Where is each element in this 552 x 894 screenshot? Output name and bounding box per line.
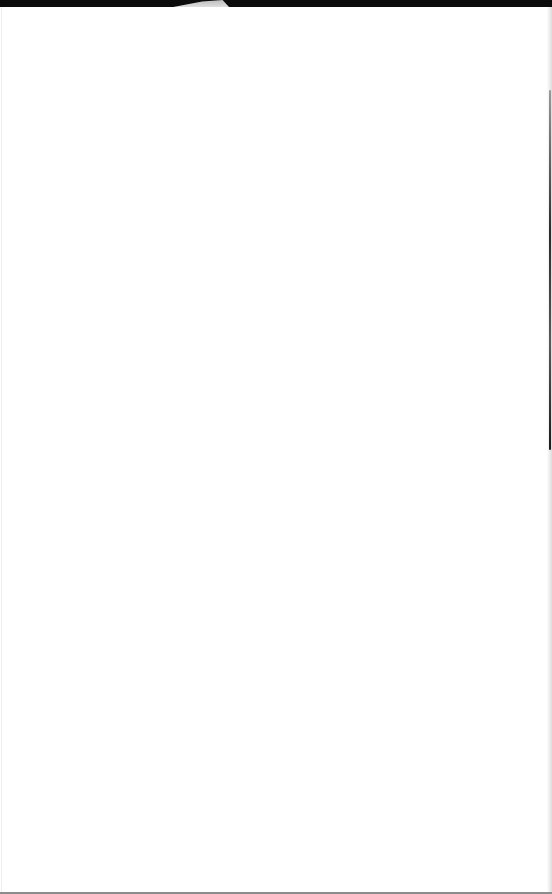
top-bar xyxy=(0,0,552,7)
page-content xyxy=(1,7,547,892)
scrollbar-thumb[interactable] xyxy=(549,90,551,450)
app-window xyxy=(0,0,552,894)
